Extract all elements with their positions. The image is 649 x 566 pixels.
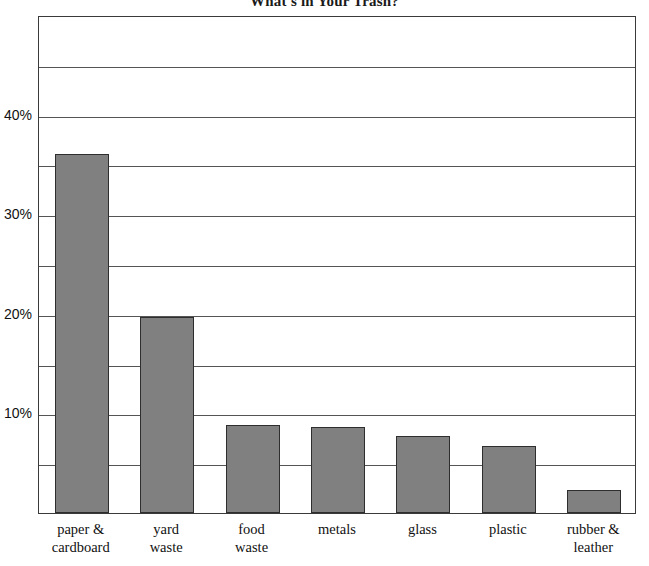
x-tick-label-rubber-leather: rubber &leather [551,521,636,556]
x-tick-label-glass: glass [380,521,465,539]
gridline-30 [39,216,635,217]
x-tick-label-yard-waste: yardwaste [123,521,208,556]
x-tick-label-line: metals [294,521,379,539]
x-tick-label-paper-cardboard: paper &cardboard [38,521,123,556]
x-tick-label-line: glass [380,521,465,539]
x-tick-label-line: cardboard [38,539,123,557]
x-tick-label-plastic: plastic [465,521,550,539]
gridline-10 [39,415,635,416]
x-tick-label-line: paper & [38,521,123,539]
bar-rubber-leather [567,490,621,513]
y-tick-label-40pct: 40% [0,108,32,122]
y-tick-label-30pct: 30% [0,207,32,221]
chart-title: What's in Your Trash? [0,0,649,10]
gridline-20 [39,316,635,317]
x-tick-label-line: plastic [465,521,550,539]
plot-area [38,16,636,514]
bar-glass [396,436,450,513]
bar-paper-cardboard [55,154,109,513]
bar-plastic [482,446,536,513]
gridline-25 [39,266,635,267]
bar-yard-waste [140,317,194,513]
x-tick-label-line: yard [123,521,208,539]
gridline-15 [39,366,635,367]
x-tick-label-line: waste [123,539,208,557]
y-tick-label-20pct: 20% [0,307,32,321]
x-tick-label-food-waste: foodwaste [209,521,294,556]
x-tick-label-line: rubber & [551,521,636,539]
gridline-45 [39,67,635,68]
x-tick-label-line: food [209,521,294,539]
gridline-40 [39,117,635,118]
bar-metals [311,427,365,513]
gridline-35 [39,166,635,167]
x-tick-label-metals: metals [294,521,379,539]
x-tick-label-line: waste [209,539,294,557]
bar-food-waste [226,425,280,513]
y-tick-label-10pct: 10% [0,406,32,420]
x-tick-label-line: leather [551,539,636,557]
